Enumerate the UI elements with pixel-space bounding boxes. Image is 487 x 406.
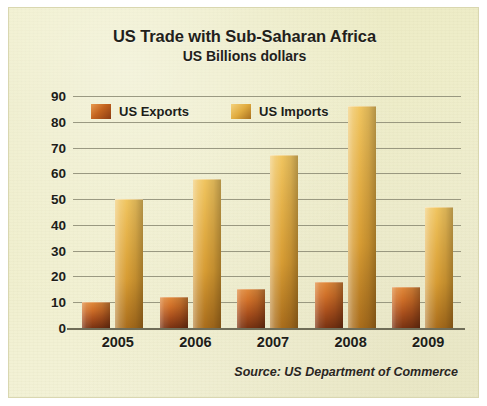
bar-group-2007 bbox=[234, 96, 312, 328]
bar-group-2005 bbox=[79, 96, 157, 328]
legend-label: US Exports bbox=[119, 104, 189, 119]
y-axis-tick-label: 60 bbox=[51, 166, 66, 181]
y-axis-tick-label: 90 bbox=[51, 89, 66, 104]
source-note: Source: US Department of Commerce bbox=[234, 365, 458, 379]
category-label-2005: 2005 bbox=[82, 334, 154, 350]
legend-swatch-icon bbox=[91, 104, 111, 119]
chart-legend: US ExportsUS Imports bbox=[91, 104, 358, 119]
legend-label: US Imports bbox=[259, 104, 328, 119]
chart-figure: US Trade with Sub-Saharan Africa US Bill… bbox=[0, 0, 487, 406]
y-axis-tick-label: 0 bbox=[58, 321, 66, 336]
category-label-2009: 2009 bbox=[392, 334, 464, 350]
chart-title: US Trade with Sub-Saharan Africa bbox=[9, 26, 479, 47]
legend-swatch-icon bbox=[231, 104, 251, 119]
bar-group-2006 bbox=[157, 96, 235, 328]
bar-group-2008 bbox=[312, 96, 390, 328]
bar-group-2009 bbox=[389, 96, 467, 328]
bar-us-imports-2007 bbox=[270, 155, 298, 328]
category-label-2007: 2007 bbox=[237, 334, 309, 350]
bar-us-exports-2009 bbox=[392, 287, 420, 328]
bar-us-exports-2008 bbox=[315, 282, 343, 328]
y-axis-tick-label: 10 bbox=[51, 295, 66, 310]
category-axis: 20052006200720082009 bbox=[73, 334, 461, 358]
chart-subtitle: US Billions dollars bbox=[9, 47, 479, 66]
category-label-2008: 2008 bbox=[315, 334, 387, 350]
y-axis-tick-label: 80 bbox=[51, 114, 66, 129]
bar-us-exports-2005 bbox=[82, 302, 110, 328]
plot-area: 9080706050403020100 bbox=[73, 96, 461, 328]
axis-baseline bbox=[67, 328, 465, 330]
bar-us-exports-2007 bbox=[237, 289, 265, 328]
y-axis-tick-label: 70 bbox=[51, 140, 66, 155]
y-axis-tick-label: 50 bbox=[51, 192, 66, 207]
y-axis-tick-label: 30 bbox=[51, 243, 66, 258]
y-axis-tick-label: 40 bbox=[51, 217, 66, 232]
chart-panel: US Trade with Sub-Saharan Africa US Bill… bbox=[8, 7, 479, 398]
bar-us-imports-2006 bbox=[193, 179, 221, 329]
y-axis-tick-label: 20 bbox=[51, 269, 66, 284]
bar-us-imports-2005 bbox=[115, 199, 143, 328]
bar-us-imports-2008 bbox=[348, 106, 376, 328]
bar-us-exports-2006 bbox=[160, 297, 188, 328]
legend-item-us-exports: US Exports bbox=[91, 104, 189, 119]
legend-item-us-imports: US Imports bbox=[231, 104, 328, 119]
category-label-2006: 2006 bbox=[159, 334, 231, 350]
bar-us-imports-2009 bbox=[425, 207, 453, 328]
bars-layer bbox=[73, 96, 461, 328]
title-block: US Trade with Sub-Saharan Africa US Bill… bbox=[9, 26, 479, 66]
